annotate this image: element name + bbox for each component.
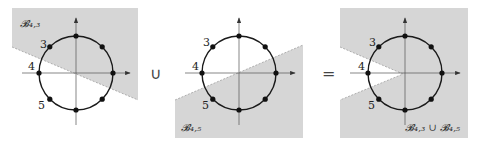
point-label-3: 3 — [369, 36, 376, 49]
set-label: 𝓑₄,₅ — [181, 122, 201, 133]
panel-b43: 3 4 5 𝓑₄,₃ — [12, 8, 138, 125]
point-label-5: 5 — [38, 99, 45, 112]
point-label-3: 3 — [40, 38, 47, 51]
point-label-5: 5 — [202, 99, 209, 112]
set-label: 𝓑₄,₃ ∪ 𝓑₄,₅ — [405, 122, 460, 133]
panel-union: 3 4 5 𝓑₄,₃ ∪ 𝓑₄,₅ — [340, 8, 468, 138]
point-label-5: 5 — [368, 99, 375, 112]
point-label-4: 4 — [358, 60, 365, 73]
union-operator: ∪ — [150, 64, 162, 83]
point-label-4: 4 — [28, 60, 35, 73]
point-label-3: 3 — [203, 36, 210, 49]
panel-b45: 3 4 5 𝓑₄,₅ — [175, 18, 303, 138]
point-label-4: 4 — [192, 60, 199, 73]
equals-operator: = — [322, 64, 335, 83]
set-label: 𝓑₄,₃ — [20, 18, 40, 29]
diagram-canvas: 3 4 5 𝓑₄,₃ ∪ 3 4 5 𝓑₄,₅ = 3 4 5 — [0, 0, 480, 146]
